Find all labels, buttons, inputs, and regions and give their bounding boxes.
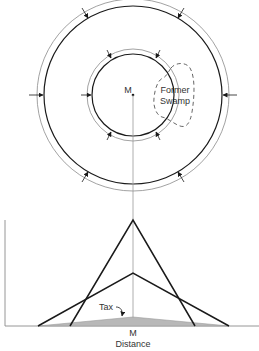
swamp-label-line1: Former <box>161 85 190 95</box>
inner-ring-arrows <box>81 50 160 140</box>
swamp-label-line2: Swamp <box>160 96 190 106</box>
tax-label: Tax <box>99 302 114 312</box>
x-axis-tick-m: M <box>129 328 137 338</box>
center-label: M <box>124 85 132 95</box>
tax-pointer-arrow <box>116 307 122 316</box>
x-axis-label: Distance <box>115 339 150 349</box>
tax-area <box>38 317 229 326</box>
diagram-canvas: M Former Swamp Tax M Distance <box>0 0 259 351</box>
